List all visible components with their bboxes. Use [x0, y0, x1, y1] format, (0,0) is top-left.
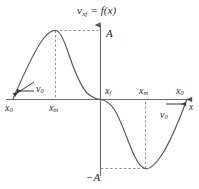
curve-negative-lobe — [101, 99, 188, 169]
tick-sub: f — [110, 89, 112, 96]
velocity-label-left: v0 — [36, 84, 44, 95]
tick-main: x — [5, 102, 9, 113]
velocity-main: v — [36, 83, 40, 94]
velocity-label-right: v0 — [160, 110, 168, 121]
velocity-sub: 0 — [41, 87, 44, 94]
tick-label-x-m-left: xm — [49, 103, 58, 114]
tick-main: x — [139, 85, 143, 96]
velocity-main: v — [160, 109, 164, 120]
tick-main: x — [176, 85, 180, 96]
tick-main: x — [105, 85, 109, 96]
physics-figure: vxf = f(x) A −A x x0 xm xf xm x0 v0 v0 — [0, 0, 199, 189]
velocity-sub: 0 — [165, 113, 168, 120]
tick-sub: 0 — [181, 89, 184, 96]
curve-positive-lobe — [13, 30, 101, 99]
tick-label-x-zero-left: x0 — [5, 103, 13, 114]
x-axis-label: x — [189, 103, 193, 113]
tick-main: x — [49, 102, 53, 113]
tick-label-x-zero-right: x0 — [176, 86, 184, 97]
figure-title: vxf = f(x) — [77, 5, 116, 18]
tick-sub: m — [144, 89, 149, 96]
tick-sub: 0 — [10, 106, 13, 113]
tick-sub: m — [54, 106, 59, 113]
figure-title-rest: = f(x) — [87, 4, 116, 16]
tick-label-x-f-center: xf — [105, 86, 111, 97]
figure-canvas — [0, 0, 199, 189]
amplitude-negative-label: −A — [86, 172, 100, 183]
amplitude-positive-label: A — [106, 28, 113, 39]
tick-label-x-m-right: xm — [139, 86, 148, 97]
